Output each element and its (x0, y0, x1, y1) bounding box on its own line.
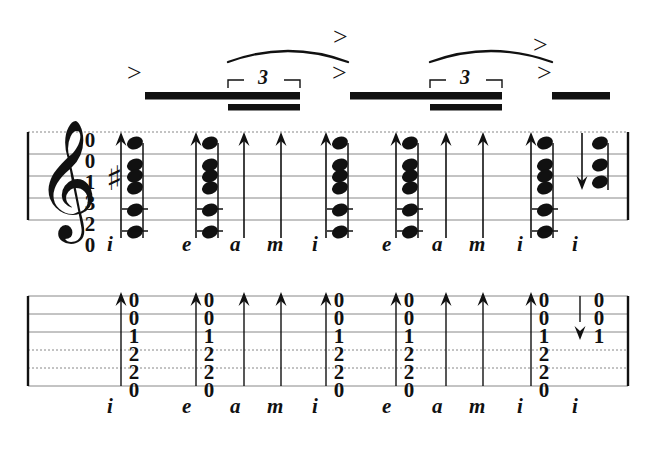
fingering-label-staff: m (469, 232, 485, 257)
accent-mark: > (533, 32, 548, 58)
fingering-label-tab: i (572, 394, 578, 419)
tab-fret-number: 0 (126, 378, 142, 403)
fingering-label-tab: m (469, 394, 485, 419)
fingering-label-tab: i (107, 394, 113, 419)
fingering-label-staff: i (517, 232, 523, 257)
fingering-label-staff: i (107, 232, 113, 257)
tab-fret-number: 1 (591, 324, 607, 349)
key-signature-sharp: ♯ (106, 158, 122, 198)
tab-fret-number: 0 (536, 378, 552, 403)
fingering-label-tab: e (182, 394, 191, 419)
svg-text:♯: ♯ (106, 158, 122, 198)
fingering-label-staff: i (312, 232, 318, 257)
accent-mark: > (332, 60, 347, 86)
fingering-label-staff: e (182, 232, 191, 257)
accent-mark: > (127, 60, 142, 86)
left-fret-number: 0 (82, 233, 98, 258)
fingering-label-tab: a (432, 394, 443, 419)
triplet-number: 3 (460, 66, 470, 89)
fingering-label-tab: m (267, 394, 283, 419)
fingering-label-staff: a (230, 232, 241, 257)
fingering-label-tab: e (382, 394, 391, 419)
tab-fret-number: 0 (201, 378, 217, 403)
tab-fret-number: 0 (331, 378, 347, 403)
fingering-label-staff: i (572, 232, 578, 257)
triplet-number: 3 (258, 66, 268, 89)
fingering-label-staff: a (432, 232, 443, 257)
fingering-label-staff: e (382, 232, 391, 257)
tab-fret-number: 0 (401, 378, 417, 403)
fingering-label-tab: i (312, 394, 318, 419)
fingering-label-tab: a (230, 394, 241, 419)
accent-mark: > (537, 60, 552, 86)
fingering-label-staff: m (267, 232, 283, 257)
accent-mark: > (333, 24, 348, 50)
fingering-label-tab: i (517, 394, 523, 419)
